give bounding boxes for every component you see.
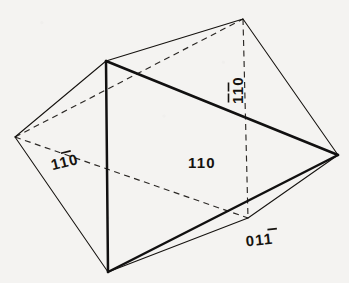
label-face-1bar1bar0: 110 (229, 76, 247, 104)
hidden-edge-left-to-backlower (15, 137, 248, 218)
edge-right-to-backlower (248, 155, 338, 218)
crystal-drawing-svg: 110 110 110 011 (0, 0, 349, 283)
label-face-110: 110 (188, 154, 216, 171)
edge-upperleft-to-bottom (106, 61, 108, 272)
label-face-1bar10: 110 (49, 150, 80, 174)
label-face-011bar: 011 (245, 229, 279, 250)
edge-left-to-upperleft (15, 61, 106, 137)
label-face-110-text: 110 (188, 154, 216, 171)
label-face-011bar-text: 011 (245, 230, 274, 250)
hidden-edge-left-to-top (15, 19, 243, 137)
label-face-1bar1bar0-text: 110 (229, 76, 246, 104)
crystal-figure: 110 110 110 011 (0, 0, 349, 283)
edge-backlower-to-bottom (108, 218, 248, 272)
label-face-1bar10-text: 110 (49, 150, 80, 173)
outline-edges-group (15, 19, 338, 272)
edge-right-to-bottom (108, 155, 338, 272)
front-face-edges-group (106, 61, 338, 272)
label-face-011bar-overbar-digit3 (267, 229, 276, 230)
edge-upperleft-to-right (106, 61, 338, 155)
